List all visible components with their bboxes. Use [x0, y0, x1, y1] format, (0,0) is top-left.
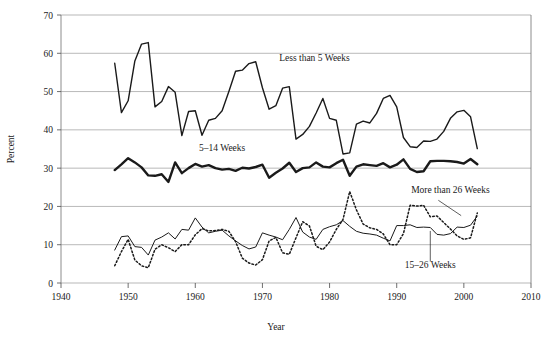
- chart-container: 0102030405060701940195019601970198019902…: [0, 0, 553, 339]
- x-tick-label: 2000: [454, 292, 473, 302]
- y-tick-label: 20: [44, 202, 54, 212]
- y-tick-label: 50: [44, 87, 54, 97]
- x-tick-label: 1970: [253, 292, 272, 302]
- y-axis-title: Percent: [6, 134, 16, 163]
- x-tick-label: 1950: [119, 292, 138, 302]
- x-tick-label: 2010: [522, 292, 541, 302]
- x-tick-label: 1980: [320, 292, 339, 302]
- y-tick-label: 10: [44, 240, 54, 250]
- x-tick-label: 1940: [52, 292, 71, 302]
- series-annotation-less_than_5: Less than 5 Weeks: [279, 53, 350, 63]
- y-tick-label: 40: [44, 125, 54, 135]
- y-tick-label: 70: [44, 11, 54, 21]
- x-tick-label: 1960: [186, 292, 205, 302]
- x-axis-title: Year: [267, 322, 285, 332]
- chart-background: [0, 0, 553, 339]
- y-tick-label: 0: [48, 279, 53, 289]
- line-chart: 0102030405060701940195019601970198019902…: [0, 0, 553, 339]
- y-tick-label: 60: [44, 49, 54, 59]
- series-annotation-five_to_14: 5–14 Weeks: [199, 143, 246, 153]
- series-annotation-more_than_26: More than 26 Weeks: [411, 185, 490, 195]
- y-tick-label: 30: [44, 164, 54, 174]
- x-tick-label: 1990: [387, 292, 406, 302]
